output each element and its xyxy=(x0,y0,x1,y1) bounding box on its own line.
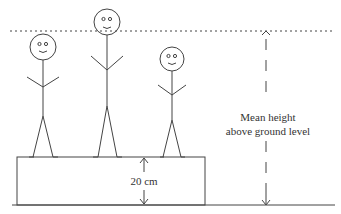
diagram-canvas: 20 cm Mean height above ground level xyxy=(0,0,341,214)
platform-box xyxy=(17,157,205,205)
arrow-up-icon xyxy=(262,31,270,35)
mean-height-label-line2: above ground level xyxy=(226,125,310,137)
stick-figure-left xyxy=(27,34,59,157)
platform-height-label: 20 cm xyxy=(130,175,158,187)
mean-height-label-line1: Mean height xyxy=(240,111,295,123)
figure-head xyxy=(160,47,184,71)
figure-head xyxy=(30,34,56,60)
stick-figure-right xyxy=(158,47,186,157)
